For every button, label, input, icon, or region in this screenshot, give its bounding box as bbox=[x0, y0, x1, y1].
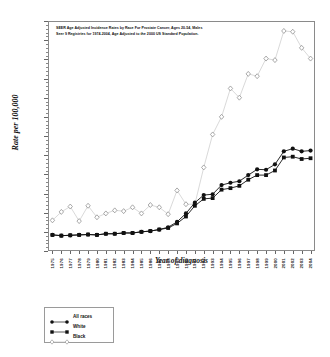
y-tick-minor bbox=[46, 247, 48, 248]
y-tick-mark-50 bbox=[44, 59, 48, 60]
x-tick-mark-1980 bbox=[97, 251, 98, 254]
legend-label-black: Black bbox=[73, 334, 85, 339]
legend-marker-all-races bbox=[49, 312, 70, 320]
y-tick-minor bbox=[46, 171, 48, 172]
x-tick-mark-2003 bbox=[302, 251, 303, 254]
y-tick-minor bbox=[46, 186, 48, 187]
y-tick-minor bbox=[46, 205, 48, 206]
x-tick-mark-1975 bbox=[52, 251, 53, 254]
y-tick-minor bbox=[46, 29, 48, 30]
x-tick-label-1980: 1980 bbox=[95, 258, 100, 269]
x-tick-label-1996: 1996 bbox=[237, 258, 242, 269]
y-tick-minor bbox=[46, 217, 48, 218]
x-tick-mark-2004 bbox=[311, 251, 312, 254]
y-tick-minor bbox=[46, 228, 48, 229]
x-tick-mark-1984 bbox=[133, 251, 134, 254]
x-tick-mark-1977 bbox=[70, 251, 71, 254]
x-tick-mark-1999 bbox=[266, 251, 267, 254]
x-tick-mark-2002 bbox=[293, 251, 294, 254]
x-tick-mark-1986 bbox=[150, 251, 151, 254]
y-tick-mark-25 bbox=[44, 155, 48, 156]
x-tick-label-1979: 1979 bbox=[86, 258, 91, 269]
y-tick-minor bbox=[46, 56, 48, 57]
x-tick-mark-1988 bbox=[168, 251, 169, 254]
y-tick-minor bbox=[46, 159, 48, 160]
y-tick-minor bbox=[46, 144, 48, 145]
chart-figure: SEER Age Adjusted Incidence Rates by Rac… bbox=[0, 0, 330, 357]
x-tick-mark-1990 bbox=[186, 251, 187, 254]
y-tick-minor bbox=[46, 209, 48, 210]
y-tick-minor bbox=[46, 220, 48, 221]
y-tick-minor bbox=[46, 197, 48, 198]
y-tick-minor bbox=[46, 82, 48, 83]
y-tick-mark-20 bbox=[44, 174, 48, 175]
chart-title: SEER Age Adjusted Incidence Rates by Rac… bbox=[56, 26, 281, 37]
x-tick-label-1992: 1992 bbox=[201, 258, 206, 269]
y-tick-minor bbox=[46, 128, 48, 129]
y-tick-mark-35 bbox=[44, 117, 48, 118]
x-tick-mark-1979 bbox=[88, 251, 89, 254]
x-tick-label-1995: 1995 bbox=[228, 258, 233, 269]
x-tick-mark-1985 bbox=[141, 251, 142, 254]
y-tick-minor bbox=[46, 25, 48, 26]
x-tick-mark-1983 bbox=[124, 251, 125, 254]
y-tick-mark-0 bbox=[44, 251, 48, 252]
y-tick-minor bbox=[46, 163, 48, 164]
chart-title-line-2: Seer 9 Registries for 1974-2004, Age Adj… bbox=[56, 32, 281, 38]
x-tick-label-1985: 1985 bbox=[139, 258, 144, 269]
legend-marker-black bbox=[49, 332, 70, 340]
y-tick-minor bbox=[46, 105, 48, 106]
x-tick-label-1987: 1987 bbox=[157, 258, 162, 269]
legend-item-all-races: All races bbox=[49, 311, 109, 321]
x-tick-mark-1992 bbox=[204, 251, 205, 254]
y-tick-mark-55 bbox=[44, 40, 48, 41]
y-tick-minor bbox=[46, 67, 48, 68]
x-tick-mark-1976 bbox=[61, 251, 62, 254]
y-tick-minor bbox=[46, 190, 48, 191]
y-tick-minor bbox=[46, 132, 48, 133]
x-tick-label-1977: 1977 bbox=[68, 258, 73, 269]
x-tick-label-1989: 1989 bbox=[175, 258, 180, 269]
x-tick-mark-1994 bbox=[222, 251, 223, 254]
y-tick-minor bbox=[46, 36, 48, 37]
x-tick-label-1991: 1991 bbox=[192, 258, 197, 269]
y-tick-minor bbox=[46, 140, 48, 141]
y-tick-mark-45 bbox=[44, 79, 48, 80]
y-tick-minor bbox=[46, 236, 48, 237]
y-tick-mark-15 bbox=[44, 194, 48, 195]
y-tick-minor bbox=[46, 121, 48, 122]
x-tick-mark-1995 bbox=[230, 251, 231, 254]
y-tick-mark-40 bbox=[44, 98, 48, 99]
legend-item-white: White bbox=[49, 321, 109, 331]
y-tick-mark-5 bbox=[44, 232, 48, 233]
y-tick-minor bbox=[46, 94, 48, 95]
x-tick-label-1975: 1975 bbox=[50, 258, 55, 269]
y-tick-minor bbox=[46, 102, 48, 103]
y-axis-label: Rate per 100,000 bbox=[11, 78, 20, 168]
x-tick-mark-1991 bbox=[195, 251, 196, 254]
y-tick-minor bbox=[46, 48, 48, 49]
y-tick-minor bbox=[46, 33, 48, 34]
x-tick-label-1994: 1994 bbox=[219, 258, 224, 269]
x-tick-label-2002: 2002 bbox=[290, 258, 295, 269]
x-tick-mark-1998 bbox=[257, 251, 258, 254]
x-tick-label-2001: 2001 bbox=[281, 258, 286, 269]
y-tick-minor bbox=[46, 201, 48, 202]
x-tick-mark-1978 bbox=[79, 251, 80, 254]
x-tick-label-1988: 1988 bbox=[166, 258, 171, 269]
x-tick-mark-1993 bbox=[213, 251, 214, 254]
x-tick-label-1986: 1986 bbox=[148, 258, 153, 269]
x-tick-mark-1981 bbox=[106, 251, 107, 254]
y-tick-minor bbox=[46, 90, 48, 91]
y-tick-minor bbox=[46, 167, 48, 168]
x-tick-label-1990: 1990 bbox=[184, 258, 189, 269]
x-tick-label-1981: 1981 bbox=[103, 258, 108, 269]
y-tick-minor bbox=[46, 148, 48, 149]
y-tick-minor bbox=[46, 63, 48, 64]
x-tick-label-1998: 1998 bbox=[255, 258, 260, 269]
x-tick-mark-2000 bbox=[275, 251, 276, 254]
x-tick-mark-2001 bbox=[284, 251, 285, 254]
plot-area bbox=[48, 21, 315, 251]
x-tick-label-1982: 1982 bbox=[112, 258, 117, 269]
x-tick-label-1983: 1983 bbox=[121, 258, 126, 269]
